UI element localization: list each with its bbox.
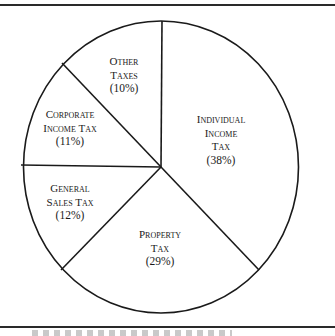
label-percent: (10%) <box>110 82 139 96</box>
slice-label-individual-income-tax: Individual Income Tax (38%) <box>197 113 246 167</box>
slice-label-corporate-income-tax: Corporate Income Tax (11%) <box>43 108 96 149</box>
label-line: Income <box>197 127 246 141</box>
slice-label-property-tax: Property Tax (29%) <box>139 228 181 269</box>
label-line: Tax <box>139 242 181 256</box>
label-percent: (11%) <box>43 135 96 149</box>
slice-label-general-sales-tax: General Sales Tax (12%) <box>47 182 94 223</box>
label-percent: (38%) <box>197 154 246 168</box>
label-line: Other <box>110 55 139 69</box>
label-percent: (29%) <box>139 255 181 269</box>
slice-label-other-taxes: Other Taxes (10%) <box>110 55 139 96</box>
label-line: Tax <box>197 140 246 154</box>
pie-chart <box>0 0 335 336</box>
label-line: Taxes <box>110 69 139 83</box>
label-line: General <box>47 182 94 196</box>
label-line: Individual <box>197 113 246 127</box>
label-line: Property <box>139 228 181 242</box>
label-line: Corporate <box>43 108 96 122</box>
label-line: Sales Tax <box>47 196 94 210</box>
cropped-caption <box>32 330 232 336</box>
bottom-rule <box>0 326 335 328</box>
label-line: Income Tax <box>43 122 96 136</box>
spoke-other-individual <box>161 21 162 167</box>
label-percent: (12%) <box>47 209 94 223</box>
